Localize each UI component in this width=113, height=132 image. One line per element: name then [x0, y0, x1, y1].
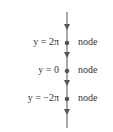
equilibrium-label: y = 0: [38, 64, 59, 75]
node-label: node: [78, 64, 97, 75]
node-label: node: [78, 36, 97, 47]
equilibrium-label: y = 2π: [33, 36, 59, 47]
node-label: node: [78, 92, 97, 103]
equilibrium-label: y = −2π: [28, 92, 59, 103]
